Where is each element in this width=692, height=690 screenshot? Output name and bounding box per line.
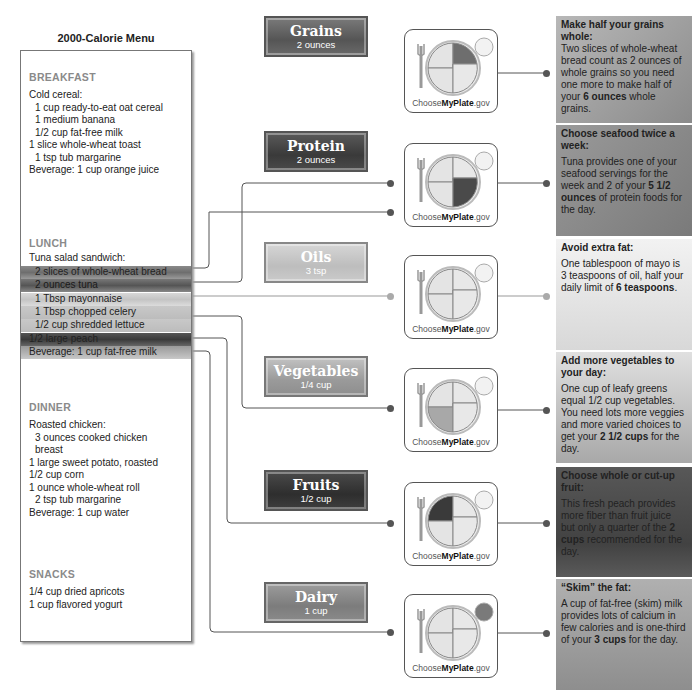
- menu-item: 1 cup flavored yogurt: [21, 599, 191, 612]
- myplate-icon-dairy: ChooseMyPlate.gov: [404, 594, 498, 678]
- menu-item: Beverage: 1 cup orange juice: [21, 164, 191, 177]
- myplate-brand: ChooseMyPlate.gov: [405, 663, 497, 673]
- menu-item: 1/2 cup corn: [21, 469, 191, 482]
- callout-oils: Avoid extra fat: One tablespoon of mayo …: [556, 239, 692, 350]
- menu-item: 1 slice whole-wheat toast: [21, 139, 191, 152]
- menu-item: 1 ounce whole-wheat roll: [21, 482, 191, 495]
- connector-dot: [387, 520, 394, 527]
- menu-item: 1/2 cup fat-free milk: [21, 127, 191, 140]
- lunch-heading: LUNCH: [29, 237, 67, 249]
- menu-item: Roasted chicken:: [21, 419, 191, 432]
- menu-item-vegetables: 1/2 cup shredded lettuce: [21, 319, 191, 332]
- callout-body: A cup of fat-free (skim) milk provides l…: [561, 598, 687, 646]
- callout-body: One tablespoon of mayo is 3 teaspoons of…: [561, 258, 687, 294]
- category-name: Dairy: [266, 590, 366, 605]
- callout-body: Two slices of whole-wheat bread count as…: [561, 43, 687, 115]
- dinner-heading: DINNER: [29, 401, 71, 413]
- connector-dot: [543, 630, 550, 637]
- myplate-icon-vegetables: ChooseMyPlate.gov: [404, 368, 498, 452]
- callout-heading: Choose whole or cut-up fruit:: [561, 470, 687, 494]
- myplate-brand: ChooseMyPlate.gov: [405, 551, 497, 561]
- connector-dot: [387, 293, 394, 300]
- menu-item: 1 medium banana: [21, 114, 191, 127]
- menu-item-dairy: Beverage: 1 cup fat-free milk: [21, 346, 191, 359]
- menu-item: 1 cup ready-to-eat oat cereal: [21, 102, 191, 115]
- menu-item: 1 tsp tub margarine: [21, 152, 191, 165]
- connector-dot: [543, 293, 550, 300]
- myplate-icon-oils: ChooseMyPlate.gov: [404, 255, 498, 339]
- menu-item: Tuna salad sandwich:: [21, 252, 191, 265]
- category-fruits: Fruits 1/2 cup: [264, 470, 368, 511]
- connector-dot: [387, 180, 394, 187]
- breakfast-heading: BREAKFAST: [29, 71, 96, 83]
- callout-heading: Make half your grains whole:: [561, 19, 687, 43]
- callout-dairy: “Skim” the fat: A cup of fat-free (skim)…: [556, 579, 692, 690]
- callout-body: This fresh peach provides more fiber tha…: [561, 498, 687, 558]
- menu-item-fruits: 1/2 large peach: [21, 333, 191, 346]
- myplate-brand: ChooseMyPlate.gov: [405, 437, 497, 447]
- menu-item-vegetables: 1 Tbsp chopped celery: [21, 306, 191, 319]
- category-oils: Oils 3 tsp: [264, 242, 368, 283]
- category-amount: 2 ounces: [266, 154, 366, 165]
- myplate-icon-grains: ChooseMyPlate.gov: [404, 29, 498, 113]
- category-name: Vegetables: [266, 364, 366, 379]
- myplate-brand: ChooseMyPlate.gov: [405, 98, 497, 108]
- menu-item: breast: [21, 444, 191, 457]
- menu-item: Beverage: 1 cup water: [21, 507, 191, 520]
- callout-vegetables: Add more vegetables to your day: One cup…: [556, 352, 692, 463]
- menu-item: Cold cereal:: [21, 89, 191, 102]
- category-amount: 3 tsp: [266, 265, 366, 276]
- callout-body: Tuna provides one of your seafood servin…: [561, 156, 687, 216]
- menu-item-protein: 2 ounces tuna: [21, 279, 191, 292]
- callout-heading: Add more vegetables to your day:: [561, 355, 687, 379]
- category-amount: 1 cup: [266, 605, 366, 616]
- menu-item-grains: 2 slices of whole-wheat bread: [21, 266, 191, 279]
- category-dairy: Dairy 1 cup: [264, 582, 368, 623]
- category-vegetables: Vegetables 1/4 cup: [264, 356, 368, 397]
- menu-item: 1/4 cup dried apricots: [21, 586, 191, 599]
- category-grains: Grains 2 ounces: [264, 16, 368, 57]
- category-amount: 2 ounces: [266, 39, 366, 50]
- callout-protein: Choose seafood twice a week: Tuna provid…: [556, 125, 692, 236]
- myplate-brand: ChooseMyPlate.gov: [405, 324, 497, 334]
- myplate-icon-fruits: ChooseMyPlate.gov: [404, 482, 498, 566]
- myplate-brand: ChooseMyPlate.gov: [405, 212, 497, 222]
- connector-dot: [543, 407, 550, 414]
- connector-dot: [543, 70, 550, 77]
- category-amount: 1/2 cup: [266, 493, 366, 504]
- snacks-heading: SNACKS: [29, 568, 75, 580]
- callout-body: One cup of leafy greens equal 1/2 cup ve…: [561, 383, 687, 455]
- callout-fruits: Choose whole or cut-up fruit: This fresh…: [556, 467, 692, 577]
- callout-grains: Make half your grains whole: Two slices …: [556, 16, 692, 123]
- category-protein: Protein 2 ounces: [264, 131, 368, 172]
- connector-dot: [543, 520, 550, 527]
- connector-dot: [387, 405, 394, 412]
- category-amount: 1/4 cup: [266, 379, 366, 390]
- category-name: Protein: [266, 139, 366, 154]
- menu-item: 3 ounces cooked chicken: [21, 432, 191, 445]
- callout-heading: “Skim” the fat:: [561, 582, 687, 594]
- menu-item: 1 large sweet potato, roasted: [21, 457, 191, 470]
- category-name: Oils: [266, 250, 366, 265]
- callout-heading: Avoid extra fat:: [561, 242, 687, 254]
- connector-dot: [387, 209, 394, 216]
- menu-card: BREAKFAST Cold cereal: 1 cup ready-to-ea…: [20, 50, 192, 642]
- category-name: Grains: [266, 24, 366, 39]
- callout-heading: Choose seafood twice a week:: [561, 128, 687, 152]
- menu-item: 2 tsp tub margarine: [21, 494, 191, 507]
- myplate-icon-protein: ChooseMyPlate.gov: [404, 143, 498, 227]
- menu-title: 2000-Calorie Menu: [20, 32, 192, 44]
- menu-item-oils: 1 Tbsp mayonnaise: [21, 293, 191, 306]
- connector-dot: [543, 180, 550, 187]
- connector-dot: [387, 629, 394, 636]
- category-name: Fruits: [266, 478, 366, 493]
